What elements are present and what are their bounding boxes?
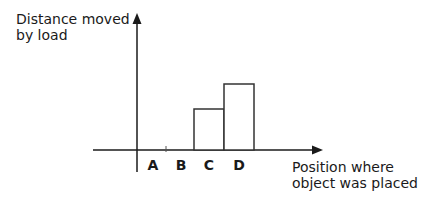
bar-d [224,84,254,150]
category-label-b: B [171,157,191,173]
x-axis-label-line1: Position where [292,159,418,175]
bar-c [194,109,224,150]
category-label-a: A [143,157,163,173]
x-axis-label: Position where object was placed [292,159,418,191]
category-label-d: D [229,157,249,173]
x-axis-arrow-icon [312,146,323,155]
category-label-c: C [199,157,219,173]
x-axis-label-line2: object was placed [292,175,418,191]
y-axis-arrow-icon [133,13,142,24]
